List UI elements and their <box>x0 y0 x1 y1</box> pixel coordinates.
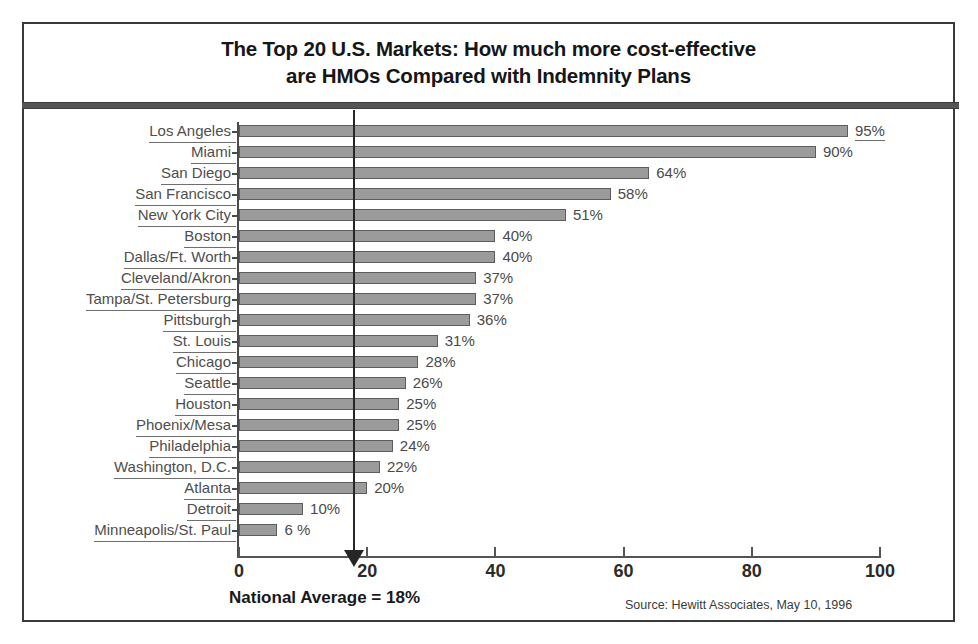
bar-value-label: 40% <box>502 226 532 245</box>
y-axis-tick <box>232 446 239 448</box>
category-label: Philadelphia <box>149 437 236 458</box>
bar-row: Boston40% <box>24 227 957 248</box>
bar-value-label: 28% <box>425 352 455 371</box>
bar-value-label: 40% <box>502 247 532 266</box>
bar-row: Phoenix/Mesa25% <box>24 416 957 437</box>
bar <box>239 440 393 452</box>
bar-value-label: 37% <box>483 289 513 308</box>
bar-value-label: 95% <box>855 121 885 141</box>
plot-area: Los Angeles95%Miami90%San Diego64%San Fr… <box>24 110 957 622</box>
category-label: Washington, D.C. <box>114 458 236 479</box>
bar-row: St. Louis31% <box>24 332 957 353</box>
bar-value-label: 20% <box>374 478 404 497</box>
title-block: The Top 20 U.S. Markets: How much more c… <box>24 24 953 102</box>
bar <box>239 188 611 200</box>
category-label: Chicago <box>176 353 236 374</box>
category-label: Houston <box>175 395 236 416</box>
bar-value-label: 26% <box>413 373 443 392</box>
category-label: Seattle <box>184 374 236 395</box>
bar <box>239 398 399 410</box>
bar-value-label: 51% <box>573 205 603 224</box>
category-label: New York City <box>138 206 236 227</box>
bar <box>239 503 303 515</box>
x-axis-tick <box>366 547 368 557</box>
bar <box>239 146 816 158</box>
category-label: Los Angeles <box>149 122 236 143</box>
x-axis-tick <box>623 547 625 557</box>
bar <box>239 230 495 242</box>
y-axis-tick <box>232 467 239 469</box>
source-note: Source: Hewitt Associates, May 10, 1996 <box>625 598 852 612</box>
bar-value-label: 31% <box>445 331 475 350</box>
y-axis-tick <box>232 383 239 385</box>
national-average-label: National Average = 18% <box>229 588 420 608</box>
x-axis-tick <box>238 547 240 557</box>
national-average-line <box>353 110 355 556</box>
bar <box>239 419 399 431</box>
category-label: Phoenix/Mesa <box>136 416 236 437</box>
x-axis-tick <box>879 547 881 557</box>
bar-value-label: 36% <box>477 310 507 329</box>
national-average-arrow-icon <box>344 550 364 567</box>
x-axis-tick <box>751 547 753 557</box>
bar-row: Houston25% <box>24 395 957 416</box>
x-axis-tick-label: 100 <box>865 561 895 582</box>
bar-row: Los Angeles95% <box>24 122 957 143</box>
y-axis-tick <box>232 530 239 532</box>
bar-row: Dallas/Ft. Worth40% <box>24 248 957 269</box>
bar-row: Seattle26% <box>24 374 957 395</box>
bar-row: Minneapolis/St. Paul6 % <box>24 521 957 542</box>
bar-value-label: 22% <box>387 457 417 476</box>
bar <box>239 293 476 305</box>
bar-value-label: 90% <box>823 142 853 161</box>
bar <box>239 461 380 473</box>
bar <box>239 377 406 389</box>
bar-value-label: 24% <box>400 436 430 455</box>
category-label: St. Louis <box>173 332 236 353</box>
y-axis-tick <box>232 215 239 217</box>
page-title: The Top 20 U.S. Markets: How much more c… <box>191 36 786 89</box>
bar-value-label: 25% <box>406 415 436 434</box>
category-label: Boston <box>184 227 236 248</box>
bar-row: Pittsburgh36% <box>24 311 957 332</box>
bar-value-label: 37% <box>483 268 513 287</box>
category-label: San Francisco <box>135 185 236 206</box>
y-axis-tick <box>232 278 239 280</box>
y-axis-tick <box>232 488 239 490</box>
category-label: Minneapolis/St. Paul <box>94 521 236 542</box>
bar <box>239 251 495 263</box>
category-label: Miami <box>191 143 236 164</box>
bar-value-label: 64% <box>656 163 686 182</box>
bar <box>239 356 418 368</box>
category-label: Tampa/St. Petersburg <box>86 290 236 311</box>
bar-row: Washington, D.C.22% <box>24 458 957 479</box>
x-axis-tick-label: 0 <box>234 561 244 582</box>
category-label: Cleveland/Akron <box>121 269 236 290</box>
bar-row: San Diego64% <box>24 164 957 185</box>
bar-row: Miami90% <box>24 143 957 164</box>
category-label: Detroit <box>187 500 236 521</box>
x-axis-tick <box>494 547 496 557</box>
y-axis-tick <box>232 320 239 322</box>
y-axis-tick <box>232 194 239 196</box>
bar <box>239 524 277 536</box>
category-label: Dallas/Ft. Worth <box>124 248 236 269</box>
y-axis-tick <box>232 257 239 259</box>
bar-row: Tampa/St. Petersburg37% <box>24 290 957 311</box>
y-axis-tick <box>232 236 239 238</box>
bar <box>239 335 438 347</box>
category-label: San Diego <box>161 164 236 185</box>
bar-value-label: 10% <box>310 499 340 518</box>
bar <box>239 167 649 179</box>
x-axis-tick-label: 40 <box>485 561 505 582</box>
bar-row: Atlanta20% <box>24 479 957 500</box>
bar <box>239 272 476 284</box>
bar-row: Chicago28% <box>24 353 957 374</box>
bar-row: New York City51% <box>24 206 957 227</box>
bar-value-label: 25% <box>406 394 436 413</box>
bar <box>239 482 367 494</box>
y-axis-tick <box>232 509 239 511</box>
bar-value-label: 6 % <box>284 520 310 539</box>
title-divider <box>22 102 959 109</box>
bar <box>239 209 566 221</box>
